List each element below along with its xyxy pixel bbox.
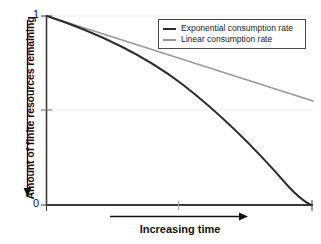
x-axis-direction-arrow <box>110 213 248 221</box>
y-axis-title: Amount of finite resources remaining <box>24 8 36 208</box>
x-axis-title: Increasing time <box>95 223 265 235</box>
legend-item-linear: Linear consumption rate <box>163 34 301 45</box>
legend-item-exponential: Exponential consumption rate <box>163 23 301 34</box>
chart-legend: Exponential consumption rate Linear cons… <box>158 19 306 49</box>
legend-label-exponential: Exponential consumption rate <box>181 23 293 34</box>
legend-label-linear: Linear consumption rate <box>181 34 272 45</box>
legend-swatch-linear <box>163 39 176 41</box>
chart-figure: 1 0 Amount of finite resources remaining… <box>0 0 321 244</box>
legend-swatch-exponential <box>163 28 176 30</box>
